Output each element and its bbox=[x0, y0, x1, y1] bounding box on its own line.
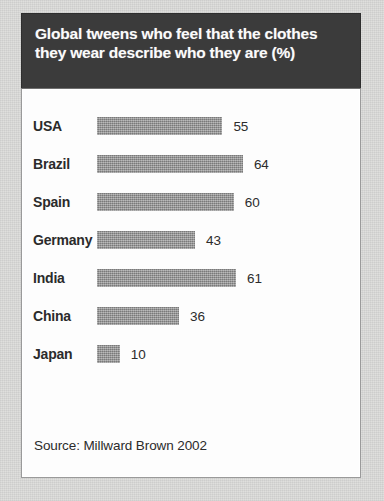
bar-track: 60 bbox=[97, 193, 360, 211]
bar-category-label: Brazil bbox=[22, 156, 97, 172]
chart-header: Global tweens who feel that the clothes … bbox=[21, 13, 361, 88]
bar-row: Japan10 bbox=[22, 335, 360, 373]
bar-row: China36 bbox=[22, 297, 360, 335]
chart-figure: Global tweens who feel that the clothes … bbox=[21, 13, 361, 478]
bar bbox=[97, 193, 234, 211]
bar-track: 10 bbox=[97, 345, 360, 363]
bar-value-label: 36 bbox=[190, 309, 205, 324]
bar-track: 43 bbox=[97, 231, 360, 249]
bar bbox=[97, 231, 195, 249]
source-note: Source: Millward Brown 2002 bbox=[34, 438, 207, 453]
bar-category-label: India bbox=[22, 270, 97, 286]
bar-row: USA55 bbox=[22, 107, 360, 145]
bar bbox=[97, 117, 222, 135]
bar bbox=[97, 269, 236, 287]
bar bbox=[97, 345, 120, 363]
bar-value-label: 43 bbox=[206, 233, 221, 248]
bar-value-label: 61 bbox=[247, 271, 262, 286]
bar-value-label: 60 bbox=[245, 195, 260, 210]
bar-row: Spain60 bbox=[22, 183, 360, 221]
bar-value-label: 55 bbox=[233, 119, 248, 134]
bar-track: 64 bbox=[97, 155, 360, 173]
bar-category-label: Japan bbox=[22, 346, 97, 362]
bar-category-label: Spain bbox=[22, 194, 97, 210]
chart-title: Global tweens who feel that the clothes … bbox=[35, 25, 347, 63]
chart-panel: USA55Brazil64Spain60Germany43India61Chin… bbox=[21, 88, 361, 478]
bar-row: Germany43 bbox=[22, 221, 360, 259]
bar-track: 55 bbox=[97, 117, 360, 135]
bar-category-label: China bbox=[22, 308, 97, 324]
bar-track: 36 bbox=[97, 307, 360, 325]
bar-row: India61 bbox=[22, 259, 360, 297]
bar-track: 61 bbox=[97, 269, 360, 287]
bar-chart-plot: USA55Brazil64Spain60Germany43India61Chin… bbox=[22, 89, 360, 373]
bar-category-label: USA bbox=[22, 118, 97, 134]
bar bbox=[97, 155, 243, 173]
bar-category-label: Germany bbox=[22, 232, 97, 248]
bar-value-label: 10 bbox=[131, 347, 146, 362]
bar-row: Brazil64 bbox=[22, 145, 360, 183]
bar bbox=[97, 307, 179, 325]
bar-value-label: 64 bbox=[254, 157, 269, 172]
